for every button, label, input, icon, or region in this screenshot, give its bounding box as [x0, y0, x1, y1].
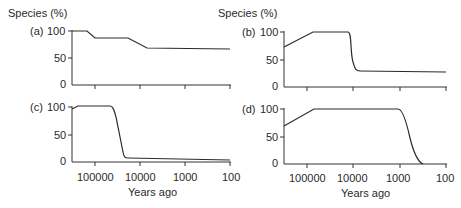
panel-c: (c) 100 50 0 100000 10000 1000 100 Years…: [30, 101, 240, 198]
axes: [72, 106, 231, 162]
xtick-100000: 100000: [77, 171, 114, 183]
curve-c: [72, 106, 230, 160]
ytick-100: 100: [47, 101, 65, 113]
ticks: [280, 109, 446, 168]
ytick-100: 100: [260, 103, 278, 115]
xlabel-right: Years ago: [341, 187, 390, 199]
panel-a: (a) 100 50 0: [30, 25, 231, 90]
ylabel-left: Species (%): [8, 7, 67, 19]
axes: [284, 108, 447, 164]
ytick-0: 0: [272, 80, 278, 92]
ticks: [280, 32, 446, 91]
axes: [284, 31, 447, 87]
panel-d: (d) 100 50 0 100000 10000 1000 100 Years…: [242, 103, 454, 199]
ytick-50: 50: [266, 54, 278, 66]
xlabel-left: Years ago: [128, 186, 177, 198]
panel-d-label: (d): [242, 103, 255, 115]
xtick-10000: 10000: [337, 172, 368, 184]
curve-d: [284, 109, 423, 164]
figure: Species (%) Species (%) (a) 100 50 0 (b)…: [0, 0, 461, 208]
panel-c-label: (c): [30, 101, 43, 113]
xtick-100: 100: [222, 171, 240, 183]
panel-a-label: (a): [30, 25, 43, 37]
xtick-10000: 10000: [125, 171, 156, 183]
ticks: [68, 31, 230, 89]
ytick-0: 0: [272, 157, 278, 169]
ytick-50: 50: [266, 131, 278, 143]
xtick-1000: 1000: [386, 172, 410, 184]
ytick-50: 50: [54, 129, 66, 141]
ticks: [68, 107, 230, 166]
xtick-100: 100: [436, 172, 454, 184]
panel-b: (b) 100 50 0: [242, 26, 447, 92]
ytick-0: 0: [60, 78, 66, 90]
xtick-1000: 1000: [173, 171, 197, 183]
ylabel-right: Species (%): [218, 7, 277, 19]
ytick-50: 50: [54, 52, 66, 64]
curve-a: [72, 31, 230, 49]
xtick-100000: 100000: [289, 172, 326, 184]
ytick-100: 100: [47, 25, 65, 37]
ytick-0: 0: [60, 155, 66, 167]
panel-b-label: (b): [242, 26, 255, 38]
ytick-100: 100: [260, 26, 278, 38]
curve-b: [284, 32, 446, 72]
